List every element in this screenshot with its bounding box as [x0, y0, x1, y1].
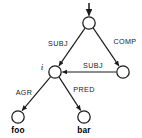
edge-label-pred-middle-bar: PRED [73, 85, 94, 94]
node-root [83, 17, 95, 29]
edge-label-subj-root-middle: SUBJ [48, 39, 68, 48]
node-right [117, 66, 129, 78]
node-label-middle-i: i [41, 62, 44, 72]
feature-structure-graph: SUBJ COMP SUBJ AGR PRED i foo bar [0, 0, 142, 138]
edge-label-agr-middle-foo: AGR [16, 88, 33, 97]
edge-label-subj-right-middle: SUBJ [83, 61, 103, 70]
node-bar [78, 111, 90, 123]
edge-label-comp-root-right: COMP [114, 37, 137, 46]
node-label-bar: bar [77, 125, 91, 135]
node-label-foo: foo [11, 125, 25, 135]
graph-canvas: SUBJ COMP SUBJ AGR PRED i foo bar [0, 0, 142, 138]
node-middle [49, 66, 61, 78]
node-foo [12, 111, 24, 123]
